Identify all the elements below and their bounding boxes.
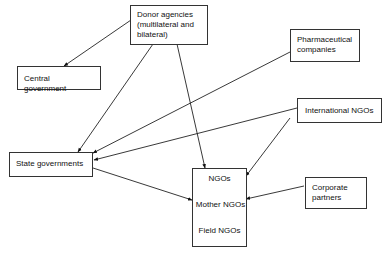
state-label: State governments bbox=[16, 159, 83, 168]
node-central-government: Central government bbox=[17, 66, 101, 90]
intl-ngos-label: International NGOs bbox=[305, 106, 373, 115]
node-international-ngos: International NGOs bbox=[297, 98, 382, 123]
node-pharmaceutical-companies: Pharmaceutical companies bbox=[290, 29, 360, 62]
node-state-governments: State governments bbox=[9, 152, 93, 177]
edge-state-ngos bbox=[93, 168, 192, 200]
mother-ngos-label: Mother NGOs bbox=[187, 200, 254, 209]
edge-intl-state bbox=[94, 108, 297, 160]
ngos-label: NGOs bbox=[193, 174, 246, 183]
node-corporate-partners: Corporate partners bbox=[305, 177, 367, 209]
edge-intl-ngos bbox=[246, 118, 290, 176]
edge-corporate-ngos bbox=[246, 186, 304, 199]
pharma-label-line1: Pharmaceutical bbox=[297, 35, 353, 45]
node-donor-agencies: Donor agencies (multilateral and bilater… bbox=[130, 5, 208, 45]
donor-label-line2: (multilateral and bbox=[137, 20, 201, 30]
corporate-label-line1: Corporate bbox=[312, 183, 360, 193]
edge-donor-central bbox=[64, 20, 131, 66]
donor-label-line1: Donor agencies bbox=[137, 10, 201, 20]
central-label: Central government bbox=[24, 74, 66, 93]
pharma-label-line2: companies bbox=[297, 45, 353, 55]
field-ngos-label: Field NGOs bbox=[193, 226, 246, 235]
node-ngo-hierarchy: NGOs Mother NGOs Field NGOs bbox=[192, 168, 247, 247]
edge-donor-state bbox=[78, 44, 153, 152]
donor-label-line3: bilateral) bbox=[137, 30, 201, 40]
edge-pharma-state bbox=[93, 52, 290, 153]
corporate-label-line2: partners bbox=[312, 193, 360, 203]
edge-donor-ngos bbox=[177, 44, 205, 168]
